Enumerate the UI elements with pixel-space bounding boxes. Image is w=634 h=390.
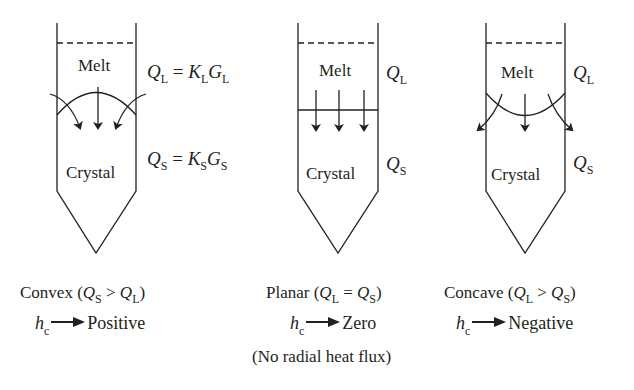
melt-label: Melt: [78, 57, 110, 74]
arrow-right-icon: [306, 317, 340, 327]
convex-caption: Convex (QS > QL): [20, 284, 145, 305]
q-solid-label: QS: [386, 154, 406, 177]
hc-concave: hcNegative: [456, 314, 573, 337]
q-solid-equation: QS = KSGS: [147, 149, 227, 172]
q-liquid-equation: QL = KLGL: [147, 62, 229, 85]
melt-label: Melt: [501, 64, 533, 81]
crystal-label: Crystal: [66, 164, 115, 181]
crystal-label: Crystal: [306, 165, 355, 182]
planar-caption: Planar (QL = QS): [266, 284, 382, 305]
arrow-right-icon: [51, 317, 85, 327]
concave-crystal-shape: [478, 23, 572, 253]
q-liquid-label: QL: [573, 63, 594, 86]
concave-caption: Concave (QL > QS): [444, 284, 576, 305]
hc-planar: hcZero: [290, 314, 376, 337]
melt-label: Melt: [319, 62, 351, 79]
q-solid-label: QS: [573, 153, 593, 176]
hc-convex: hcPositive: [35, 314, 145, 337]
arrow-right-icon: [472, 317, 506, 327]
planar-crystal-shape: [298, 23, 378, 253]
no-radial-heat-flux-note: (No radial heat flux): [252, 348, 391, 365]
crystal-label: Crystal: [491, 166, 540, 183]
q-liquid-label: QL: [386, 63, 407, 86]
